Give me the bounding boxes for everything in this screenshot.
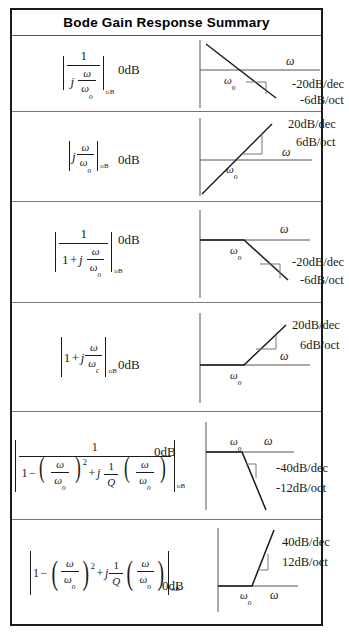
denominator: 1+j ω ωo — [59, 245, 108, 276]
omega-symbol: ω — [80, 67, 94, 80]
corner-frequency-label: ωo — [230, 244, 242, 259]
formula-highpass-first-order: 1+j ω ωc dB — [59, 337, 117, 377]
plus-sign: + — [70, 351, 80, 364]
minus-sign: − — [28, 466, 38, 480]
omega-symbol: ω — [138, 557, 152, 570]
omega-glyph: ω — [240, 589, 248, 601]
one-over-q: 1 Q — [104, 460, 118, 488]
abs-bar-right — [111, 232, 112, 272]
zero-db-label: 0dB — [118, 62, 140, 78]
db-subscript: dB — [114, 268, 123, 277]
fraction: 1 1−( ω ωo )2+j 1 Q — [19, 441, 171, 490]
omega-c-symbol: ωc — [85, 357, 102, 373]
omega-glyph: ω — [88, 357, 96, 369]
formula-differentiator: j ω ωo dB — [67, 141, 109, 172]
omega-ratio: ω ωo — [136, 458, 154, 489]
omega-glyph: ω — [230, 435, 238, 447]
denominator: 1−( ω ωo )2+j 1 Q ( — [19, 458, 171, 490]
omega-axis-label: ω — [282, 145, 290, 160]
omega-subscript: o — [232, 83, 236, 92]
fraction-line — [104, 474, 118, 475]
fraction-line — [137, 571, 155, 572]
omega-ratio: ω ωo — [51, 458, 69, 489]
open-paren: ( — [127, 562, 134, 583]
one-over-q: 1 Q — [109, 559, 123, 587]
omega-axis-label: ω — [264, 434, 272, 449]
table-row: 1−( ω ωo )2+j 1 Q ( ω ωo ) — [12, 520, 321, 626]
numerator: 1 — [77, 49, 90, 64]
plus-sign: + — [95, 567, 105, 579]
table-header: Bode Gain Response Summary — [12, 10, 321, 36]
fraction-line — [136, 472, 154, 473]
slope-decade-label: -40dB/dec — [276, 460, 328, 477]
fraction-line — [85, 355, 102, 356]
abs-bar-left — [55, 232, 56, 272]
close-paren: ) — [160, 458, 166, 477]
bode-plot-integrator — [160, 36, 321, 111]
slope-decade-label: -20dB/dec — [292, 76, 344, 93]
slope-decade-label: -20dB/dec — [292, 254, 344, 271]
formula-integrator: 1 j ω ωo dB — [61, 49, 114, 98]
zero-db-label: 0dB — [154, 444, 176, 460]
omega-o-symbol: ωo — [77, 156, 95, 172]
omega-o-symbol: ωo — [136, 474, 154, 490]
table-row: 1 1−( ω ωo )2+j 1 Q — [12, 412, 321, 520]
plot-cell-lowpass2: 0dB ω ωo -40dB/dec -12dB/oct — [184, 412, 321, 519]
abs-bar-left — [30, 551, 31, 595]
omega-subscript: c — [96, 366, 99, 375]
plus-sign: + — [87, 466, 97, 480]
slope-decade-label: 20dB/dec — [288, 116, 336, 133]
abs-bar-left — [63, 56, 64, 90]
fraction-line — [59, 243, 108, 244]
omega-glyph: ω — [90, 261, 98, 273]
close-paren: ) — [82, 562, 89, 583]
omega-symbol: ω — [138, 458, 152, 471]
table-row: 1+j ω ωc dB 0dB ω ωo — [12, 303, 321, 412]
abs-bar-right — [97, 141, 98, 171]
exponent-two: 2 — [91, 562, 95, 571]
db-subscript: dB — [108, 368, 117, 377]
q-symbol: Q — [104, 476, 118, 489]
abs-bar-left — [69, 141, 70, 171]
open-paren: ( — [51, 562, 58, 583]
omega-o-symbol: ωo — [137, 573, 155, 589]
plus-sign: + — [69, 252, 79, 267]
omega-ratio: ω ωo — [77, 141, 95, 172]
omega-symbol: ω — [53, 458, 67, 471]
omega-subscript: o — [89, 92, 93, 101]
omega-glyph: ω — [54, 474, 62, 486]
omega-axis-label: ω — [270, 588, 278, 603]
fraction-line — [77, 154, 95, 155]
fraction: 1 j ω ωo — [67, 49, 99, 98]
fraction-line — [78, 80, 96, 81]
omega-subscript: o — [248, 598, 252, 607]
omega-o-symbol: ωo — [51, 474, 69, 490]
omega-subscript: o — [238, 378, 242, 387]
fraction-line — [87, 259, 105, 260]
omega-axis-label: ω — [280, 222, 288, 237]
omega-symbol: ω — [89, 245, 103, 258]
omega-subscript: o — [147, 582, 151, 591]
omega-subscript: o — [238, 253, 242, 262]
one-term: 1 — [62, 252, 69, 267]
omega-glyph: ω — [230, 244, 238, 256]
page-title: Bode Gain Response Summary — [63, 15, 269, 30]
formula-highpass-second-order: 1−( ω ωo )2+j 1 Q ( ω ωo ) — [28, 551, 180, 595]
slope-octave-label: 6dB/oct — [300, 337, 340, 354]
fraction-line — [67, 65, 99, 66]
q-symbol: Q — [109, 575, 123, 588]
plot-cell-lowpass1: 0dB ω ωo -20dB/dec -6dB/oct — [160, 202, 321, 302]
corner-frequency-label: ωo — [224, 74, 236, 89]
j-symbol: j — [79, 252, 83, 267]
zero-db-label: 0dB — [162, 578, 184, 594]
numerator: 1 — [110, 559, 122, 572]
slope-octave-label: -6dB/oct — [300, 92, 344, 109]
j-symbol: j — [97, 466, 100, 480]
omega-glyph: ω — [224, 74, 232, 86]
j-symbol: j — [81, 351, 85, 364]
omega-ratio: ω ωo — [61, 557, 79, 588]
abs-bar-right — [105, 337, 106, 377]
omega-subscript: o — [98, 270, 102, 279]
plot-cell-integrator: 0dB ω ωo -20dB/dec -6dB/oct — [160, 36, 321, 111]
j-symbol: j — [72, 150, 76, 163]
